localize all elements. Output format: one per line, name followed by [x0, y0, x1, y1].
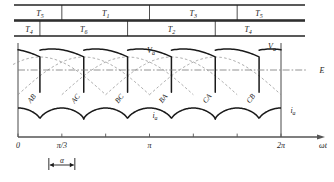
segment-label: AC: [68, 92, 82, 106]
segment-label: BA: [157, 92, 170, 105]
x-tick-label: π/3: [57, 141, 67, 150]
line-to-line-sinusoids: [13, 57, 281, 95]
alpha-marker: α: [49, 156, 75, 170]
conduction-segment-labels: ABACBCBACACB: [25, 92, 258, 106]
thyristor-segment-label: T5: [36, 9, 43, 19]
segment-label: CB: [244, 92, 257, 105]
va-label-right: Va: [268, 42, 276, 52]
ia-label-right: ia: [290, 106, 295, 116]
va-waveform: [18, 49, 281, 92]
e-label: E: [319, 66, 325, 75]
segment-label: BC: [113, 92, 126, 105]
va-label: Va: [147, 46, 155, 56]
thyristor-segment-label: T6: [80, 25, 87, 35]
x-tick-label: 2π: [277, 141, 286, 150]
thyristor-segment-label: T3: [190, 9, 197, 19]
thyristor-segment-label: T1: [102, 9, 109, 19]
segment-label: AB: [25, 92, 39, 106]
x-tick-label: 0: [16, 141, 20, 150]
lower-thyristor-row: T4T6T2T4: [14, 21, 305, 36]
thyristor-segment-label: T5: [255, 9, 262, 19]
thyristor-segment-label: T4: [244, 25, 251, 35]
thyristor-segment-label: T2: [168, 25, 175, 35]
omega-t-arrowhead: [317, 134, 325, 139]
ia-waveform: [18, 108, 281, 119]
thyristor-segment-label: T4: [25, 25, 32, 35]
alpha-label: α: [60, 156, 64, 165]
ia-label: ia: [152, 111, 157, 121]
figure-root: T5T1T3T5T4T6T2T4EVaVaABACBCBACACBiaia0π/…: [0, 0, 334, 182]
segment-label: CA: [200, 92, 213, 105]
x-tick-label: π: [147, 141, 152, 150]
upper-thyristor-row: T5T1T3T5: [14, 5, 305, 20]
waveform-diagram: T5T1T3T5T4T6T2T4EVaVaABACBCBACACBiaia0π/…: [0, 0, 334, 182]
omega-t-label: ωt: [319, 141, 328, 150]
